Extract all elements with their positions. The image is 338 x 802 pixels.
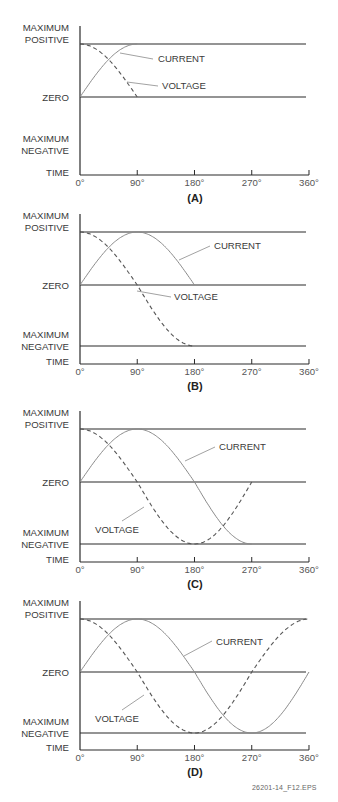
waveform-panels: 0°90°180°270°360°MAXIMUMPOSITIVEZEROMAXI… xyxy=(0,0,338,802)
panel-c-tick-label: 360° xyxy=(299,564,319,575)
panel-c-voltage-leader xyxy=(122,507,144,521)
panel-d-label-max-positive: MAXIMUM xyxy=(23,597,69,608)
panel-c-tick-label: 270° xyxy=(242,564,262,575)
panel-a-tick-label: 270° xyxy=(242,177,262,188)
panel-a-current-curve xyxy=(80,44,137,97)
panel-d-current-leader xyxy=(184,641,212,656)
panel-c-label-max-negative: NEGATIVE xyxy=(21,539,69,550)
panel-b-current-curve xyxy=(80,232,195,285)
panel-b-label-max-positive: MAXIMUM xyxy=(23,210,69,221)
panel-a-current-leader xyxy=(120,53,153,59)
panel-a-voltage-curve xyxy=(80,44,137,97)
panel-c-label-max-positive: MAXIMUM xyxy=(23,407,69,418)
panel-b-title: (B) xyxy=(187,380,203,392)
panel-a-label-max-positive: MAXIMUM xyxy=(23,22,69,33)
panel-d-voltage-leader xyxy=(122,695,144,710)
panel-a-label-zero: ZERO xyxy=(42,92,69,103)
panel-d-label-max-negative: NEGATIVE xyxy=(21,728,69,739)
panel-a-label-max-negative: MAXIMUM xyxy=(23,133,69,144)
panel-c-tick-label: 90° xyxy=(130,564,145,575)
panel-b-voltage-leader xyxy=(137,291,171,297)
panel-b-current-leader xyxy=(179,246,210,260)
panel-c-tick-label: 0° xyxy=(75,564,84,575)
panel-b-label-max-negative: NEGATIVE xyxy=(21,341,69,352)
panel-c-label-zero: ZERO xyxy=(42,477,69,488)
panel-a-tick-label: 0° xyxy=(75,177,84,188)
panel-d-label-max-positive: POSITIVE xyxy=(25,609,69,620)
panel-d-tick-label: 360° xyxy=(299,752,319,763)
panel-b-voltage-label: VOLTAGE xyxy=(174,291,218,302)
panel-c-voltage-label: VOLTAGE xyxy=(95,524,139,535)
panel-a-label-max-positive: POSITIVE xyxy=(25,34,69,45)
panel-a-label-max-negative: NEGATIVE xyxy=(21,145,69,156)
panel-c-tick-label: 180° xyxy=(185,564,205,575)
panel-c-label-max-positive: POSITIVE xyxy=(25,419,69,430)
phase-diagram-figure: 0°90°180°270°360°MAXIMUMPOSITIVEZEROMAXI… xyxy=(0,0,338,802)
panel-b-tick-label: 360° xyxy=(299,366,319,377)
panel-a-tick-label: 90° xyxy=(130,177,145,188)
panel-a-tick-label: 360° xyxy=(299,177,319,188)
panel-d-tick-label: 180° xyxy=(185,752,205,763)
panel-a-label-time: TIME xyxy=(46,167,69,178)
panel-d-tick-label: 90° xyxy=(130,752,145,763)
panel-a-voltage-leader xyxy=(127,82,158,86)
panel-a-current-label: CURRENT xyxy=(158,53,205,64)
panel-d-tick-label: 270° xyxy=(242,752,262,763)
panel-d-current-label: CURRENT xyxy=(216,636,263,647)
panel-a-title: (A) xyxy=(187,192,203,204)
panel-b-voltage-curve xyxy=(80,232,195,346)
panel-d-label-max-negative: MAXIMUM xyxy=(23,716,69,727)
panel-a-voltage-label: VOLTAGE xyxy=(162,80,206,91)
panel-d-title: (D) xyxy=(187,766,203,778)
panel-c-label-max-negative: MAXIMUM xyxy=(23,527,69,538)
panel-d-label-zero: ZERO xyxy=(42,667,69,678)
panel-c-current-leader xyxy=(185,447,215,461)
panel-b-label-max-positive: POSITIVE xyxy=(25,222,69,233)
panel-c-current-label: CURRENT xyxy=(219,441,266,452)
panel-b-label-time: TIME xyxy=(46,356,69,367)
panel-b-current-label: CURRENT xyxy=(214,240,261,251)
panel-b-label-max-negative: MAXIMUM xyxy=(23,329,69,340)
panel-b-label-zero: ZERO xyxy=(42,280,69,291)
panel-b-tick-label: 90° xyxy=(130,366,145,377)
panel-b-tick-label: 270° xyxy=(242,366,262,377)
panel-a-tick-label: 180° xyxy=(185,177,205,188)
panel-d-label-time: TIME xyxy=(46,742,69,753)
panel-d-voltage-label: VOLTAGE xyxy=(95,713,139,724)
panel-c-label-time: TIME xyxy=(46,554,69,565)
panel-b-tick-label: 0° xyxy=(75,366,84,377)
figure-id-footer: 26201-14_F12.EPS xyxy=(252,784,317,791)
panel-c-title: (C) xyxy=(187,578,203,590)
panel-d-tick-label: 0° xyxy=(75,752,84,763)
panel-b-tick-label: 180° xyxy=(185,366,205,377)
